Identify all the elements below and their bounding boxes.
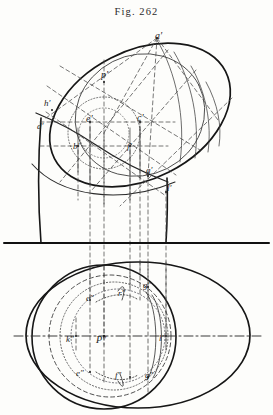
plan-label-k-dbl: k″ xyxy=(66,335,74,344)
elevation-label-g-prime: g′ xyxy=(146,166,152,175)
elevation-label-b-prime: b′ xyxy=(73,142,79,151)
elevation-label-d-prime: d′ xyxy=(37,122,43,131)
elevation-label-l-prime: l′ xyxy=(167,184,171,193)
figure-plate: Fig. 262 xyxy=(0,0,273,415)
plan-label-g-dbl-lower: g″ xyxy=(145,371,153,380)
plan-label-p-dbl: P″ xyxy=(96,335,106,345)
elevation-slant-elements xyxy=(157,40,220,162)
elevation-label-f-prime: f′ xyxy=(127,142,131,151)
elevation-label-p-prime: p′ xyxy=(101,70,108,80)
elevation-label-a-prime: a′ xyxy=(155,31,162,41)
plan-label-e-dbl-lower: e″ xyxy=(76,369,84,378)
elevation-fine-rules xyxy=(78,126,140,200)
elevation-construction-dashed xyxy=(40,38,232,206)
plan-label-e-dbl-upper: e″ xyxy=(86,294,94,303)
elevation-label-c-prime: c′ xyxy=(137,113,144,123)
elevation-projectors xyxy=(78,120,166,346)
figure-drawing xyxy=(0,0,273,415)
plan-label-r-dbl: r″ xyxy=(118,289,125,298)
elevation-label-e-prime: e′ xyxy=(86,114,93,124)
elevation-label-h-prime: h′ xyxy=(44,99,50,108)
plan-label-g-dbl-upper: g″ xyxy=(143,281,151,290)
plan-label-l-dbl: l″ xyxy=(159,334,165,343)
plan-label-f-dbl: f″ xyxy=(115,371,121,380)
